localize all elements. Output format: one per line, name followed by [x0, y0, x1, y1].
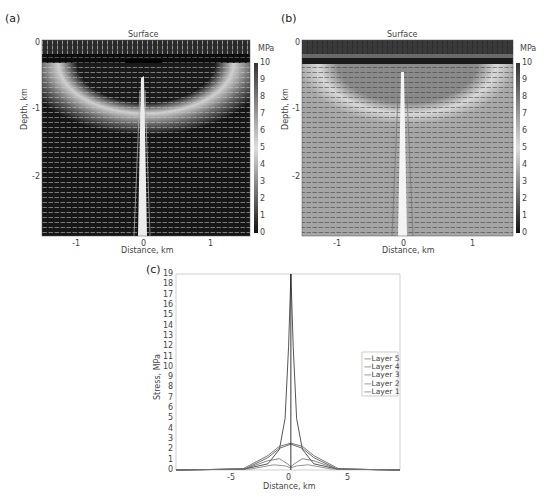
panel-c-ytick: 1	[168, 455, 173, 464]
colorbar-tick: 9	[522, 75, 527, 84]
panel-b-ytick: -1	[292, 104, 300, 113]
colorbar-tick: 0	[260, 228, 265, 237]
panel-c-ytick: 7	[168, 393, 173, 402]
panel-a-title: Surface	[128, 30, 158, 39]
panel-label-c: (c)	[146, 263, 161, 276]
colorbar-tick: 1	[260, 211, 265, 220]
colorbar-tick: 7	[260, 109, 265, 118]
panel-c-ytick: 13	[163, 331, 173, 340]
panel-c-xtick: 5	[345, 473, 350, 482]
panel-a-plot	[42, 40, 250, 236]
panel-c-xtick: -5	[227, 473, 235, 482]
panel-a-xtick: -1	[72, 239, 80, 248]
panel-b-colorbar-label: MPa	[520, 44, 536, 53]
series-line-layer-4	[176, 444, 400, 470]
colorbar-tick: 9	[260, 75, 265, 84]
colorbar-tick: 4	[260, 160, 265, 169]
panel-c-ytick: 17	[163, 290, 173, 299]
series-line-layer-2	[176, 459, 400, 470]
panel-c-ytick: 12	[163, 341, 173, 350]
colorbar-tick: 3	[522, 177, 527, 186]
panel-c-ytick: 18	[163, 279, 173, 288]
colorbar-tick: 6	[522, 126, 527, 135]
panel-c-ytick: 19	[163, 269, 173, 278]
figure-canvas	[0, 0, 552, 502]
panel-c-ytick: 15	[163, 310, 173, 319]
panel-b-colorbar	[516, 63, 520, 233]
panel-c-ytick: 14	[163, 321, 173, 330]
colorbar-tick: 10	[260, 58, 270, 67]
panel-c-ytick: 2	[168, 444, 173, 453]
panel-b-title: Surface	[387, 30, 417, 39]
panel-c-ytick: 16	[163, 300, 173, 309]
panel-a-xtick: 1	[208, 239, 213, 248]
panel-b-xtick: 1	[470, 239, 475, 248]
panel-a-ytick: -2	[32, 172, 40, 181]
panel-a-xlabel: Distance, km	[121, 246, 174, 255]
colorbar-tick: 7	[522, 109, 527, 118]
panel-label-b: (b)	[281, 12, 297, 25]
colorbar-tick: 8	[522, 92, 527, 101]
panel-c-xtick: 0	[286, 473, 291, 482]
panel-label-a: (a)	[5, 12, 20, 25]
panel-c-xlabel: Distance, km	[263, 482, 316, 491]
panel-c-ytick: 5	[168, 413, 173, 422]
colorbar-tick: 2	[522, 194, 527, 203]
panel-a-ylabel: Depth, km	[20, 88, 29, 130]
colorbar-tick: 10	[522, 58, 532, 67]
panel-b-xtick: -1	[333, 239, 341, 248]
panel-c-ytick: 9	[168, 372, 173, 381]
colorbar-tick: 0	[522, 228, 527, 237]
panel-c-ylabel: Stress, MPa	[153, 354, 162, 400]
panel-c-ytick: 6	[168, 403, 173, 412]
panel-c-ytick: 3	[168, 434, 173, 443]
series-line-layer-1	[176, 465, 400, 470]
panel-c-ytick: 4	[168, 424, 173, 433]
panel-b-plot	[302, 40, 513, 236]
panel-a-ytick: 0	[35, 38, 40, 47]
colorbar-tick: 5	[260, 143, 265, 152]
panel-a-colorbar	[254, 63, 258, 233]
colorbar-tick: 3	[260, 177, 265, 186]
colorbar-tick: 1	[522, 211, 527, 220]
colorbar-tick: 6	[260, 126, 265, 135]
panel-b-ytick: 0	[295, 38, 300, 47]
panel-c-ytick: 0	[168, 465, 173, 474]
panel-c-ytick: 8	[168, 382, 173, 391]
panel-c-ytick: 10	[163, 362, 173, 371]
colorbar-tick: 4	[522, 160, 527, 169]
colorbar-tick: 2	[260, 194, 265, 203]
colorbar-tick: 8	[260, 92, 265, 101]
panel-b-xlabel: Distance, km	[382, 246, 435, 255]
panel-b-ytick: -2	[292, 172, 300, 181]
series-line-layer-3	[176, 443, 400, 470]
colorbar-tick: 5	[522, 143, 527, 152]
legend-entry: —Layer 1	[364, 387, 400, 396]
panel-a-ytick: -1	[32, 104, 40, 113]
panel-a-colorbar-label: MPa	[258, 44, 274, 53]
panel-b-ylabel: Depth, km	[281, 88, 290, 130]
panel-c-ytick: 11	[163, 352, 173, 361]
